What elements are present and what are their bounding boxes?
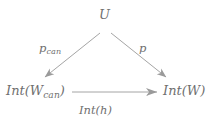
edge-label-p: p — [139, 43, 146, 55]
node-int-w: Int(W) — [163, 84, 205, 97]
node-int-wcan-prefix: Int(W — [6, 83, 43, 98]
arrow-u-to-int-w — [111, 33, 166, 77]
edge-label-inth-text: Int(h) — [79, 103, 112, 117]
node-int-wcan-subscript: can — [43, 90, 60, 100]
node-u-label: U — [99, 7, 110, 22]
commutative-diagram: U Int(Wcan) Int(W) pcan p Int(h) — [0, 0, 211, 124]
node-int-wcan-suffix: ) — [60, 83, 65, 98]
edge-label-p-text: p — [139, 41, 146, 55]
node-u: U — [99, 8, 110, 21]
node-int-w-label: Int(W) — [163, 83, 205, 98]
node-int-wcan: Int(Wcan) — [6, 84, 65, 100]
edge-label-inth: Int(h) — [79, 105, 112, 117]
edge-label-pcan: pcan — [39, 43, 61, 56]
edge-label-pcan-subscript: can — [46, 47, 61, 56]
